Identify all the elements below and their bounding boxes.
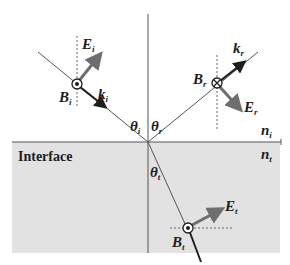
reflected-e-label: Er: [243, 99, 258, 117]
upper-medium-label: ni: [261, 122, 272, 140]
reflected-angle-label: θr: [151, 118, 163, 136]
reflected-k-label: kr: [233, 40, 245, 58]
incident-e-arrow: [78, 56, 99, 82]
interface-diagram: Ei Bi ki kr Br Er θi θr θt ni nt Interfa…: [0, 0, 290, 265]
transmitted-b-out-of-page-icon: [183, 223, 193, 233]
incident-k-label: ki: [98, 86, 109, 104]
incident-b-label: Bi: [58, 89, 72, 107]
reflected-b-into-page-icon: [212, 78, 222, 88]
reflected-b-label: Br: [192, 71, 207, 89]
reflected-e-arrow: [219, 86, 239, 108]
incident-angle-label: θi: [130, 118, 141, 136]
incident-e-label: Ei: [81, 36, 95, 54]
interface-label: Interface: [18, 149, 72, 164]
incident-b-out-of-page-icon: [72, 79, 82, 89]
reflected-k-arrow: [220, 63, 243, 81]
